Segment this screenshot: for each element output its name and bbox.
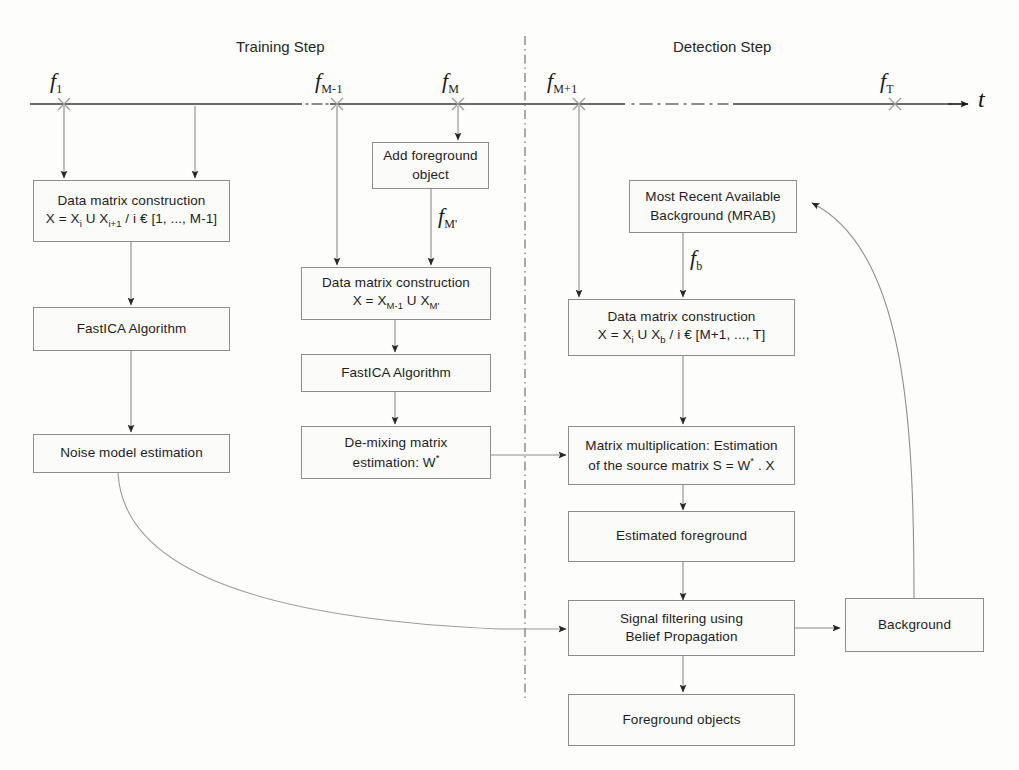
diagram-canvas: Training Step Detection Step f1 fM-1 fM …	[0, 0, 1019, 770]
box-line-2: Belief Propagation	[625, 628, 737, 646]
frame-label-fM+1: fM+1	[547, 68, 577, 97]
box-line-1: Noise model estimation	[60, 444, 203, 462]
box-line-2: object	[412, 166, 449, 184]
frame-sub: M	[448, 82, 459, 96]
box-foreground-objects[interactable]: Foreground objects	[568, 694, 795, 746]
box-line-1: Data matrix construction	[58, 192, 206, 210]
background-to-mrab-curve	[812, 203, 914, 598]
box-add-foreground-object[interactable]: Add foreground object	[372, 142, 489, 189]
phase-label-detection: Detection Step	[673, 38, 771, 55]
frame-label-fM: fM	[442, 68, 459, 97]
box-mid-fastica[interactable]: FastICA Algorithm	[301, 354, 491, 392]
frame-label-fM-prime: fM'	[438, 203, 458, 232]
phase-label-training: Training Step	[236, 38, 325, 55]
box-train-data-matrix[interactable]: Data matrix construction X = Xi U Xi+1 /…	[33, 180, 230, 242]
box-line-1: Estimated foreground	[616, 527, 747, 545]
box-line-2: X = Xi U Xb / i € [M+1, ..., T]	[598, 326, 766, 347]
frame-sub: M+1	[553, 82, 577, 96]
box-line-1: Matrix multiplication: Estimation	[585, 437, 777, 455]
frame-sub: b	[696, 259, 702, 273]
box-line-1: Data matrix construction	[608, 308, 756, 326]
box-train-fastica[interactable]: FastICA Algorithm	[33, 307, 230, 351]
box-line-1: Add foreground	[383, 147, 477, 165]
box-demixing-matrix[interactable]: De-mixing matrix estimation: W*	[301, 426, 491, 479]
frame-label-fM-1: fM-1	[315, 68, 343, 97]
time-axis-label: t	[978, 86, 985, 113]
box-line-2: X = XM-1 U XM'	[353, 292, 440, 313]
box-matrix-multiplication[interactable]: Matrix multiplication: Estimation of the…	[568, 426, 795, 485]
box-line-1: FastICA Algorithm	[341, 364, 451, 382]
training-connectors	[64, 106, 195, 432]
box-line-2: X = Xi U Xi+1 / i € [1, ..., M-1]	[46, 210, 217, 231]
box-estimated-foreground[interactable]: Estimated foreground	[568, 511, 795, 562]
connector-layer	[0, 0, 1019, 770]
box-line-1: Foreground objects	[622, 711, 740, 729]
frame-label-f1: f1	[50, 68, 62, 97]
box-det-data-matrix[interactable]: Data matrix construction X = Xi U Xb / i…	[568, 299, 795, 356]
box-line-1: De-mixing matrix	[345, 434, 448, 452]
box-background[interactable]: Background	[845, 598, 984, 652]
box-line-1: Data matrix construction	[322, 274, 470, 292]
noise-to-signal-filter-curve	[118, 473, 566, 629]
box-line-1: Signal filtering using	[620, 610, 743, 628]
box-line-2: of the source matrix S = W* . X	[588, 455, 774, 475]
timeline-axis	[30, 98, 968, 110]
box-line-2: Background (MRAB)	[650, 207, 776, 225]
box-signal-filtering[interactable]: Signal filtering using Belief Propagatio…	[568, 600, 795, 656]
box-train-noise-model[interactable]: Noise model estimation	[33, 434, 230, 473]
box-line-2: estimation: W*	[353, 452, 440, 472]
box-mrab[interactable]: Most Recent Available Background (MRAB)	[629, 180, 797, 233]
box-mid-data-matrix[interactable]: Data matrix construction X = XM-1 U XM'	[301, 267, 491, 320]
frame-sub: M'	[444, 217, 457, 231]
frame-sub: M-1	[321, 82, 343, 96]
frame-sub: T	[886, 82, 894, 96]
box-line-1: Most Recent Available	[645, 188, 780, 206]
box-line-1: FastICA Algorithm	[77, 320, 187, 338]
box-line-1: Background	[878, 616, 951, 634]
frame-label-fb: fb	[690, 245, 702, 274]
frame-label-fT: fT	[880, 68, 894, 97]
frame-sub: 1	[56, 82, 62, 96]
